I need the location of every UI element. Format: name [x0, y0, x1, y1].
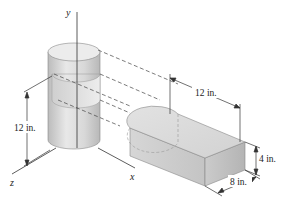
label-box-width: 8 in. [230, 177, 247, 187]
label-box-length: 12 in. [195, 88, 217, 98]
y-axis-label: y [65, 7, 71, 18]
z-axis [12, 148, 56, 174]
label-box-height: 4 in. [259, 154, 276, 164]
cylinder-solid [48, 43, 100, 149]
z-axis-label: z [9, 177, 14, 188]
rounded-box-solid [127, 106, 245, 186]
dimension-box-height [245, 142, 260, 176]
composite-solid-diagram: y z x 12 in. 12 in. [0, 0, 285, 206]
x-axis-label: x [129, 171, 135, 182]
label-cylinder-height: 12 in. [14, 123, 36, 133]
x-axis [98, 148, 135, 168]
